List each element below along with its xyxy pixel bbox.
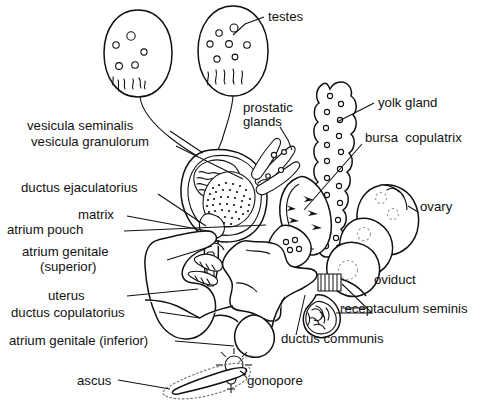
label-atrium-genitale-superior-line1: atrium genitale [22, 244, 109, 259]
label-gonopore: gonopore [247, 373, 303, 388]
label-vesicula-seminalis: vesicula seminalis [27, 118, 134, 133]
anatomical-diagram: testes prostatic glands yolk gland bursa… [0, 0, 491, 419]
label-ascus: ascus [77, 373, 112, 388]
label-uterus: uterus [48, 288, 85, 303]
label-ductus-communis: ductus communis [281, 331, 384, 346]
label-oviduct: oviduct [374, 272, 416, 287]
label-vesicula-granulorum: vesicula granulorum [31, 134, 149, 149]
label-receptaculum-seminis: receptaculum seminis [340, 301, 468, 316]
label-matrix: matrix [78, 207, 114, 222]
testis-left [104, 10, 172, 97]
label-atrium-genitale-inferior: atrium genitale (inferior) [9, 333, 148, 348]
label-prostatic-glands-line2: glands [243, 114, 282, 129]
label-atrium-genitale-superior-line2: (superior) [40, 259, 96, 274]
label-yolk-gland: yolk gland [378, 95, 437, 110]
label-ductus-copulatorius: ductus copulatorius [11, 305, 125, 320]
label-ductus-ejaculatorius: ductus ejaculatorius [21, 180, 138, 195]
label-atrium-pouch: atrium pouch [7, 222, 83, 237]
label-ovary: ovary [420, 199, 453, 214]
label-testes: testes [268, 9, 304, 24]
label-prostatic-glands-line1: prostatic [243, 100, 293, 115]
label-bursa-copulatrix: bursa copulatrix [365, 130, 462, 145]
